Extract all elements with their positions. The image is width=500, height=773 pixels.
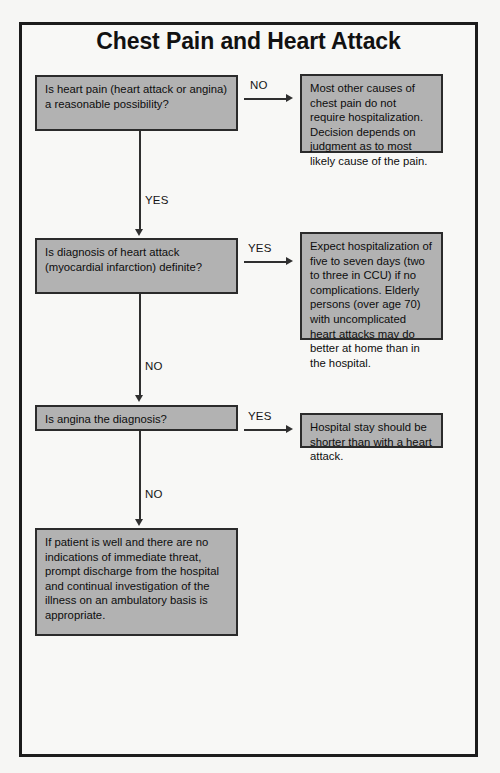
decision-node-angina-diagnosis[interactable]: Is angina the diagnosis?	[35, 405, 238, 431]
decision-node-mi-definite[interactable]: Is diagnosis of heart attack (myocardial…	[35, 238, 238, 294]
page-title: Chest Pain and Heart Attack	[19, 28, 478, 55]
edge-arrowhead-q1-to-q2	[135, 229, 143, 236]
outcome-node-discharge-ambulatory[interactable]: If patient is well and there are no indi…	[35, 528, 238, 636]
edge-line-q3-to-a4	[139, 431, 141, 521]
outcome-node-expect-hospitalization[interactable]: Expect hospitalization of five to seven …	[300, 232, 443, 340]
edge-line-q2-to-q3	[139, 294, 141, 397]
edge-label-q3-no: NO	[145, 488, 163, 500]
decision-node-heart-pain-possibility[interactable]: Is heart pain (heart attack or angina) a…	[35, 75, 238, 131]
edge-label-q2-no: NO	[145, 360, 163, 372]
edge-line-q3-to-a3	[244, 429, 287, 431]
edge-line-q1-to-q2	[139, 131, 141, 231]
edge-label-q1-yes: YES	[145, 194, 169, 206]
edge-label-q1-no: NO	[250, 79, 268, 91]
edge-arrowhead-q3-to-a4	[135, 519, 143, 526]
edge-line-q2-to-a2	[244, 261, 287, 263]
edge-arrowhead-q1-to-a1	[286, 94, 293, 102]
edge-line-q1-to-a1	[244, 98, 287, 100]
outcome-node-hospital-stay-shorter[interactable]: Hospital stay should be shorter than wit…	[300, 413, 443, 448]
edge-label-q3-yes: YES	[248, 410, 272, 422]
outcome-node-other-causes[interactable]: Most other causes of chest pain do not r…	[300, 74, 443, 153]
edge-arrowhead-q2-to-q3	[135, 395, 143, 402]
page-canvas: Chest Pain and Heart Attack Is heart pai…	[0, 0, 500, 773]
edge-label-q2-yes: YES	[248, 242, 272, 254]
edge-arrowhead-q2-to-a2	[286, 257, 293, 265]
edge-arrowhead-q3-to-a3	[286, 425, 293, 433]
